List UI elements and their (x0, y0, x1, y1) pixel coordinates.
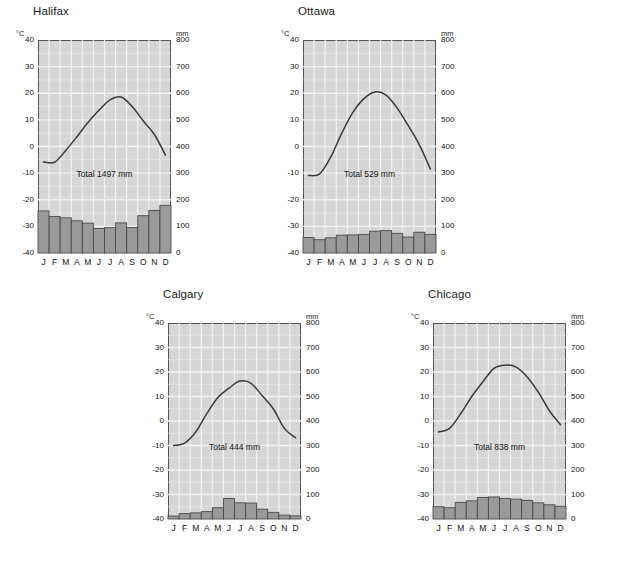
temperature-tick-label: 20 (9, 89, 34, 97)
precipitation-tick-label: 200 (441, 196, 467, 204)
temperature-tick-label: -30 (9, 222, 34, 230)
month-label: J (358, 258, 369, 267)
month-label: M (82, 258, 93, 267)
plot-area (168, 323, 301, 519)
precipitation-bar (179, 514, 190, 519)
precipitation-bars (303, 231, 436, 253)
precipitation-bar (444, 508, 455, 519)
month-label: A (511, 524, 522, 533)
precipitation-tick-label: 500 (306, 393, 332, 401)
precipitation-tick-label: 100 (176, 222, 202, 230)
month-label: D (160, 258, 171, 267)
month-label: J (370, 258, 381, 267)
month-label: F (49, 258, 60, 267)
month-label: N (149, 258, 160, 267)
precipitation-bar (555, 506, 566, 519)
precipitation-bar (314, 240, 325, 253)
precipitation-bar (138, 216, 149, 253)
temperature-tick-label: 10 (404, 393, 429, 401)
chart-title: Halifax (33, 5, 69, 17)
month-label: A (336, 258, 347, 267)
precipitation-tick-label: 0 (441, 249, 467, 257)
chart-canvas (303, 40, 436, 253)
precipitation-tick-label: 600 (306, 368, 332, 376)
plot-area (433, 323, 566, 519)
precipitation-tick-label: 0 (176, 249, 202, 257)
precipitation-tick-label: 800 (306, 319, 332, 327)
temperature-tick-label: -40 (404, 515, 429, 523)
precipitation-tick-label: 100 (441, 222, 467, 230)
temperature-tick-label: 10 (9, 116, 34, 124)
chart-canvas (38, 40, 171, 253)
month-label: J (235, 524, 246, 533)
precipitation-tick-label: 600 (571, 368, 597, 376)
month-label: M (190, 524, 201, 533)
precipitation-bar (425, 234, 436, 253)
temperature-tick-label: -30 (274, 222, 299, 230)
precipitation-bar (433, 507, 444, 519)
precipitation-bar (246, 503, 257, 519)
month-label: J (223, 524, 234, 533)
precipitation-tick-label: 100 (571, 491, 597, 499)
temperature-tick-label: -20 (274, 196, 299, 204)
month-label: O (138, 258, 149, 267)
month-label: O (403, 258, 414, 267)
precipitation-bar (358, 234, 369, 253)
month-label: O (533, 524, 544, 533)
precipitation-tick-label: 700 (176, 63, 202, 71)
month-label: J (38, 258, 49, 267)
month-label: M (325, 258, 336, 267)
temperature-tick-label: 0 (139, 417, 164, 425)
total-precipitation-annotation: Total 444 mm (191, 442, 279, 452)
month-label: D (555, 524, 566, 533)
gridlines (433, 323, 566, 519)
precipitation-tick-label: 300 (571, 442, 597, 450)
month-label: D (425, 258, 436, 267)
precipitation-bar (477, 497, 488, 519)
precipitation-bar (93, 229, 104, 254)
precipitation-bar (325, 238, 336, 253)
temperature-tick-label: 20 (404, 368, 429, 376)
precipitation-tick-label: 400 (441, 143, 467, 151)
total-precipitation-annotation: Total 529 mm (326, 169, 414, 179)
precipitation-tick-label: 800 (176, 36, 202, 44)
precipitation-bar (49, 217, 60, 253)
precipitation-bars (168, 498, 301, 519)
temperature-tick-label: -10 (139, 442, 164, 450)
month-label: A (246, 524, 257, 533)
temperature-tick-label: 30 (139, 344, 164, 352)
precipitation-bar (235, 503, 246, 519)
chart-title: Chicago (428, 288, 471, 300)
precipitation-tick-label: 700 (441, 63, 467, 71)
precipitation-tick-label: 800 (571, 319, 597, 327)
total-precipitation-annotation: Total 838 mm (456, 442, 544, 452)
chart-title: Calgary (163, 288, 203, 300)
month-label: N (279, 524, 290, 533)
precipitation-bar (268, 512, 279, 519)
month-label: J (105, 258, 116, 267)
month-label: F (179, 524, 190, 533)
precipitation-bar (160, 205, 171, 253)
precipitation-bar (105, 228, 116, 253)
precipitation-tick-label: 300 (441, 169, 467, 177)
precipitation-bar (522, 500, 533, 519)
temperature-tick-label: 40 (9, 36, 34, 44)
month-label: A (201, 524, 212, 533)
month-label: F (444, 524, 455, 533)
precipitation-bar (511, 499, 522, 519)
precipitation-tick-label: 0 (571, 515, 597, 523)
precipitation-bar (392, 233, 403, 253)
precipitation-tick-label: 600 (176, 89, 202, 97)
precipitation-bar (82, 223, 93, 253)
precipitation-bar (127, 227, 138, 253)
month-label: S (392, 258, 403, 267)
month-label: J (303, 258, 314, 267)
temperature-tick-label: 0 (274, 143, 299, 151)
precipitation-bar (381, 231, 392, 253)
temperature-tick-label: -40 (274, 249, 299, 257)
temperature-tick-label: 20 (139, 368, 164, 376)
precipitation-bar (190, 513, 201, 519)
temperature-tick-label: 30 (274, 63, 299, 71)
precipitation-bar (168, 516, 179, 519)
precipitation-bar (414, 232, 425, 253)
